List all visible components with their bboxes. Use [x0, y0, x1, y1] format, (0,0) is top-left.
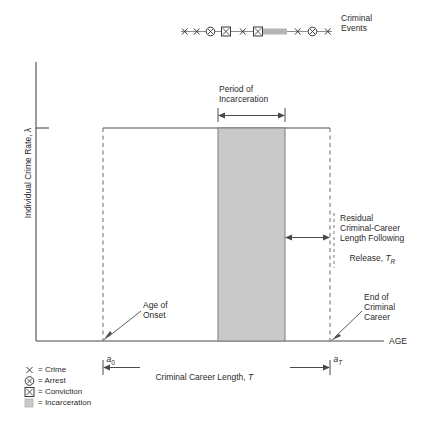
conviction-icon — [24, 386, 36, 397]
legend-label-arrest: = Arrest — [38, 376, 66, 386]
residual-label-line1: Residual — [340, 213, 373, 223]
criminal-career-figure: Individual Crime Rate, λ — [0, 0, 429, 423]
arrest-icon — [24, 375, 36, 386]
events-incarceration-span — [262, 29, 287, 35]
residual-release-text: Release, — [349, 253, 385, 263]
incarceration-block — [218, 128, 285, 341]
aT-sub: T — [338, 359, 342, 366]
end-of-career-label-line2: Criminal — [364, 302, 395, 312]
incarceration-period-label-line2: Incarceration — [219, 94, 268, 104]
x-tick-label-onset: a0 — [97, 344, 115, 378]
end-of-career-label-line3: Career — [364, 312, 390, 322]
residual-label-line4: Release, TR — [340, 243, 395, 277]
x-tick-label-career-end: aT — [324, 344, 342, 378]
events-caption-line1: Criminal — [341, 13, 372, 23]
a0-sub: 0 — [111, 359, 115, 366]
residual-career-arrow — [285, 234, 330, 240]
age-of-onset-label-line2: Onset — [143, 310, 166, 320]
age-of-onset-label-line1: Age of — [143, 300, 168, 310]
age-of-onset-leader — [103, 311, 141, 341]
career-length-var: T — [248, 372, 253, 382]
end-of-career-leader — [330, 311, 362, 341]
legend-label-conviction: = Conviction — [38, 387, 82, 397]
incarceration-icon — [24, 397, 36, 408]
x-axis-title: AGE — [389, 336, 407, 346]
legend-label-crime: = Crime — [38, 365, 66, 375]
diagram-canvas — [0, 0, 429, 423]
residual-tr-sub: R — [391, 258, 396, 265]
incarceration-period-label-line1: Period of — [219, 84, 253, 94]
residual-label-line3: Length Following — [340, 233, 404, 243]
crime-icon — [24, 364, 36, 375]
end-of-career-label-line1: End of — [364, 292, 389, 302]
career-length-text: Criminal Career Length, — [155, 372, 248, 382]
career-length-label: Criminal Career Length, T — [146, 362, 253, 392]
legend-label-incarceration: = Incarceration — [38, 398, 91, 408]
events-caption-line2: Events — [341, 23, 367, 33]
residual-label-line2: Criminal-Career — [340, 223, 400, 233]
incarceration-period-arrow — [218, 108, 285, 122]
